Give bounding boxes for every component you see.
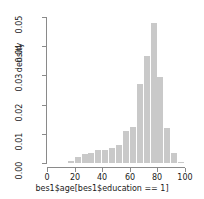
x-axis-tick bbox=[75, 168, 76, 172]
y-axis-tick bbox=[42, 75, 46, 76]
y-axis-tick bbox=[42, 17, 46, 18]
histogram-bar bbox=[109, 148, 115, 163]
x-axis-tick-label: 20 bbox=[60, 173, 90, 182]
x-axis-tick-label: 100 bbox=[170, 173, 200, 182]
x-axis-tick bbox=[47, 168, 48, 172]
plot-area bbox=[47, 17, 185, 163]
x-axis-tick bbox=[102, 168, 103, 172]
y-axis-tick bbox=[42, 134, 46, 135]
histogram-bar bbox=[151, 23, 157, 163]
histogram-bar bbox=[130, 127, 136, 164]
y-axis-tick-label: 0.02 bbox=[16, 104, 25, 122]
histogram-bar bbox=[123, 131, 129, 163]
histogram-bar bbox=[164, 128, 170, 163]
histogram-bar bbox=[171, 153, 177, 163]
y-axis-tick-label-container: 0.03 bbox=[0, 70, 40, 80]
histogram-bar bbox=[157, 77, 163, 163]
x-axis-title: bes1$age[bes1$education == 1] bbox=[0, 184, 204, 193]
histogram-bar bbox=[95, 150, 101, 163]
x-axis-tick-label: 0 bbox=[32, 173, 62, 182]
y-axis-tick-label-container: 0.01 bbox=[0, 129, 40, 139]
histogram-bar bbox=[116, 145, 122, 163]
y-axis-tick bbox=[42, 163, 46, 164]
histogram-bar bbox=[137, 84, 143, 163]
y-axis-tick-label-container: 0.00 bbox=[0, 158, 40, 168]
y-axis-tick-label-container: 0.05 bbox=[0, 12, 40, 22]
x-axis-tick-label: 80 bbox=[142, 173, 172, 182]
x-axis-tick-label: 60 bbox=[115, 173, 145, 182]
x-axis-tick bbox=[130, 168, 131, 172]
histogram-bar bbox=[144, 56, 150, 163]
y-axis-tick-label: 0.01 bbox=[16, 133, 25, 151]
y-axis-tick-label: 0.03 bbox=[16, 74, 25, 92]
histogram-bar bbox=[75, 157, 81, 163]
y-axis-tick-label-container: 0.02 bbox=[0, 100, 40, 110]
y-axis-tick-label: 0.04 bbox=[16, 45, 25, 63]
histogram-bar bbox=[102, 150, 108, 163]
y-axis-tick-label-container: 0.04 bbox=[0, 41, 40, 51]
histogram-bar bbox=[88, 153, 94, 163]
y-axis-tick-label: 0.00 bbox=[16, 162, 25, 180]
histogram-bar bbox=[82, 154, 88, 163]
y-axis-tick bbox=[42, 46, 46, 47]
y-axis-tick-label: 0.05 bbox=[16, 16, 25, 34]
x-axis-tick-label: 40 bbox=[87, 173, 117, 182]
x-axis-tick bbox=[157, 168, 158, 172]
histogram-figure: density 0.000.010.020.030.040.05 0204060… bbox=[0, 0, 204, 199]
x-axis-tick bbox=[185, 168, 186, 172]
histogram-bar bbox=[178, 162, 184, 163]
y-axis-tick bbox=[42, 105, 46, 106]
x-axis-line bbox=[47, 167, 185, 168]
histogram-bar bbox=[68, 161, 74, 163]
